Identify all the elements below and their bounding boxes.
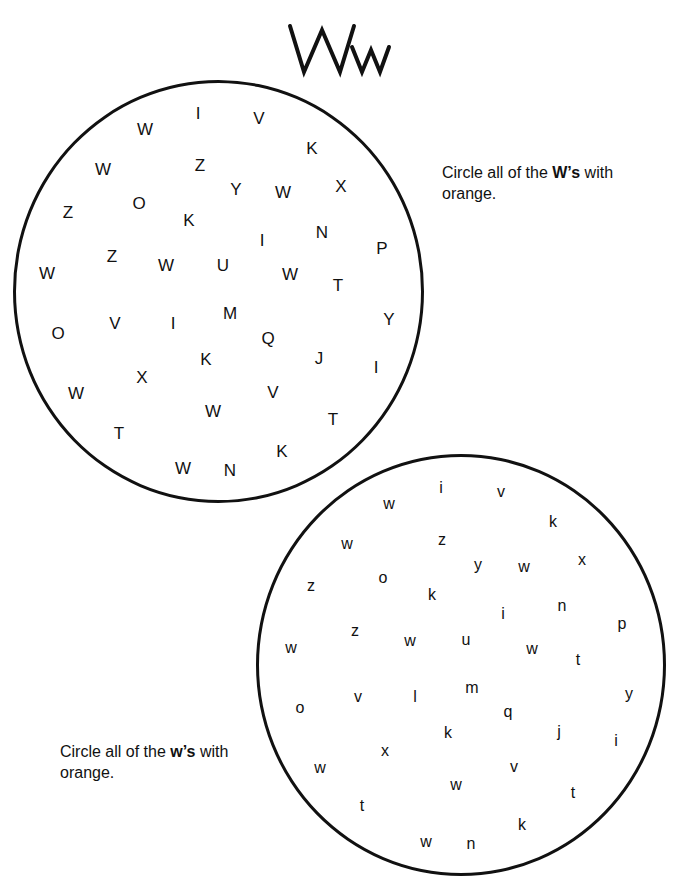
lowercase-letter-t[interactable]: t bbox=[571, 785, 575, 801]
uppercase-letter-W[interactable]: W bbox=[95, 161, 111, 178]
lowercase-letter-w[interactable]: w bbox=[404, 633, 416, 649]
instruction-text: with bbox=[580, 164, 613, 181]
uppercase-letter-Y[interactable]: Y bbox=[383, 311, 394, 328]
uppercase-letter-W[interactable]: W bbox=[205, 403, 221, 420]
uppercase-letter-X[interactable]: X bbox=[136, 369, 147, 386]
uppercase-letter-W[interactable]: W bbox=[137, 121, 153, 138]
uppercase-letter-I[interactable]: I bbox=[171, 315, 176, 332]
instruction-lowercase: Circle all of the w’s with orange. bbox=[60, 741, 280, 783]
uppercase-letter-W[interactable]: W bbox=[275, 184, 291, 201]
lowercase-letter-i[interactable]: i bbox=[614, 733, 618, 749]
lowercase-letter-i[interactable]: i bbox=[501, 606, 505, 622]
uppercase-letter-T[interactable]: T bbox=[114, 425, 124, 442]
uppercase-letter-I[interactable]: I bbox=[260, 232, 265, 249]
uppercase-letter-W[interactable]: W bbox=[158, 257, 174, 274]
lowercase-letter-j[interactable]: j bbox=[557, 724, 561, 740]
uppercase-letter-Y[interactable]: Y bbox=[230, 181, 241, 198]
lowercase-letter-v[interactable]: v bbox=[354, 689, 362, 705]
lowercase-letter-n[interactable]: n bbox=[558, 598, 567, 614]
instruction-target-letter: W’s bbox=[552, 164, 580, 181]
instruction-target-letter: w’s bbox=[170, 743, 195, 760]
title-uppercase-w bbox=[290, 26, 354, 72]
uppercase-letter-U[interactable]: U bbox=[217, 257, 229, 274]
lowercase-letter-w[interactable]: w bbox=[285, 640, 297, 656]
lowercase-letter-k[interactable]: k bbox=[428, 587, 436, 603]
lowercase-letter-k[interactable]: k bbox=[549, 514, 557, 530]
uppercase-letter-I[interactable]: I bbox=[374, 359, 379, 376]
uppercase-letter-T[interactable]: T bbox=[333, 277, 343, 294]
uppercase-letter-Z[interactable]: Z bbox=[63, 204, 73, 221]
lowercase-letter-y[interactable]: y bbox=[474, 557, 482, 573]
lowercase-letter-t[interactable]: t bbox=[576, 652, 580, 668]
uppercase-letter-J[interactable]: J bbox=[315, 350, 324, 367]
lowercase-letter-n[interactable]: n bbox=[467, 836, 476, 852]
instruction-text: with bbox=[195, 743, 228, 760]
uppercase-letter-V[interactable]: V bbox=[253, 110, 264, 127]
lowercase-letter-l[interactable]: l bbox=[413, 689, 417, 705]
lowercase-letter-w[interactable]: w bbox=[420, 834, 432, 850]
uppercase-letter-O[interactable]: O bbox=[51, 325, 64, 342]
lowercase-letter-z[interactable]: z bbox=[438, 532, 446, 548]
lowercase-letter-k[interactable]: k bbox=[444, 725, 452, 741]
uppercase-letter-N[interactable]: N bbox=[224, 462, 236, 479]
lowercase-letter-y[interactable]: y bbox=[625, 686, 633, 702]
lowercase-letter-x[interactable]: x bbox=[381, 743, 389, 759]
lowercase-letter-z[interactable]: z bbox=[307, 578, 315, 594]
lowercase-letter-circle bbox=[256, 454, 666, 876]
lowercase-letter-u[interactable]: u bbox=[462, 632, 471, 648]
lowercase-letter-w[interactable]: w bbox=[341, 536, 353, 552]
uppercase-letter-X[interactable]: X bbox=[335, 178, 346, 195]
uppercase-letter-O[interactable]: O bbox=[132, 195, 145, 212]
uppercase-letter-circle bbox=[13, 80, 424, 503]
lowercase-letter-o[interactable]: o bbox=[296, 700, 305, 716]
instruction-text: orange. bbox=[442, 185, 496, 202]
lowercase-letter-t[interactable]: t bbox=[360, 798, 364, 814]
uppercase-letter-P[interactable]: P bbox=[376, 240, 387, 257]
lowercase-letter-w[interactable]: w bbox=[518, 559, 530, 575]
instruction-text: Circle all of the bbox=[60, 743, 170, 760]
uppercase-letter-K[interactable]: K bbox=[276, 443, 287, 460]
uppercase-letter-K[interactable]: K bbox=[183, 212, 194, 229]
uppercase-letter-W[interactable]: W bbox=[175, 460, 191, 477]
lowercase-letter-i[interactable]: i bbox=[439, 480, 443, 496]
lowercase-letter-k[interactable]: k bbox=[518, 817, 526, 833]
uppercase-letter-I[interactable]: I bbox=[196, 105, 201, 122]
instruction-text: orange. bbox=[60, 764, 114, 781]
uppercase-letter-M[interactable]: M bbox=[223, 305, 237, 322]
lowercase-letter-q[interactable]: q bbox=[504, 704, 513, 720]
uppercase-letter-Z[interactable]: Z bbox=[107, 248, 117, 265]
uppercase-letter-Q[interactable]: Q bbox=[261, 330, 274, 347]
lowercase-letter-z[interactable]: z bbox=[351, 623, 359, 639]
worksheet-title: W bbox=[0, 0, 679, 90]
lowercase-letter-m[interactable]: m bbox=[465, 680, 478, 696]
uppercase-letter-V[interactable]: V bbox=[267, 384, 278, 401]
lowercase-letter-v[interactable]: v bbox=[510, 759, 518, 775]
uppercase-letter-T[interactable]: T bbox=[328, 411, 338, 428]
uppercase-letter-W[interactable]: W bbox=[282, 266, 298, 283]
lowercase-letter-w[interactable]: w bbox=[383, 496, 395, 512]
lowercase-letter-v[interactable]: v bbox=[497, 484, 505, 500]
instruction-uppercase: Circle all of the W’s with orange. bbox=[442, 162, 662, 204]
lowercase-letter-w[interactable]: w bbox=[526, 641, 538, 657]
lowercase-letter-w[interactable]: w bbox=[450, 777, 462, 793]
uppercase-letter-W[interactable]: W bbox=[39, 265, 55, 282]
uppercase-letter-Z[interactable]: Z bbox=[195, 157, 205, 174]
uppercase-letter-K[interactable]: K bbox=[306, 140, 317, 157]
uppercase-letter-N[interactable]: N bbox=[316, 224, 328, 241]
lowercase-letter-w[interactable]: w bbox=[314, 760, 326, 776]
lowercase-letter-o[interactable]: o bbox=[379, 570, 388, 586]
lowercase-letter-p[interactable]: p bbox=[618, 616, 627, 632]
lowercase-letter-x[interactable]: x bbox=[578, 552, 586, 568]
title-lowercase-w bbox=[352, 47, 389, 72]
uppercase-letter-W[interactable]: W bbox=[68, 385, 84, 402]
instruction-text: Circle all of the bbox=[442, 164, 552, 181]
uppercase-letter-V[interactable]: V bbox=[109, 315, 120, 332]
uppercase-letter-K[interactable]: K bbox=[200, 351, 211, 368]
